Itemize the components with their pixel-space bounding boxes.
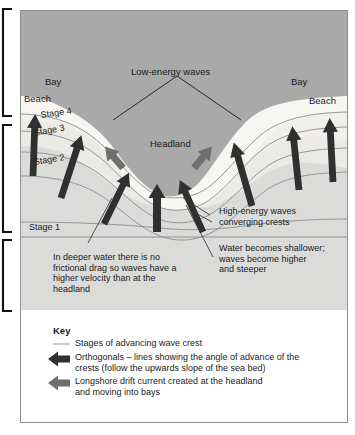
label-stage-1: Stage 1: [29, 222, 60, 233]
key-title: Key: [53, 325, 70, 336]
label-bay-right: Bay: [291, 76, 307, 87]
label-beach-left: Beach: [24, 93, 51, 104]
annotation-water-shallower: Water becomes shallower; waves become hi…: [219, 243, 325, 275]
key-entry-2-text: Longshore drift current created at the h…: [75, 376, 263, 397]
label-low-energy-waves: Low-energy waves: [131, 66, 210, 77]
bracket-2: [3, 125, 12, 232]
label-beach-right: Beach: [309, 95, 336, 106]
label-headland: Headland: [150, 138, 191, 149]
key-entry-0-text: Stages of advancing wave crest: [75, 338, 202, 349]
label-bay-left: Bay: [45, 76, 61, 87]
key-entry-1-text: Orthogonals – lines showing the angle of…: [75, 352, 299, 373]
annotation-high-energy-waves: High-energy waves converging crests: [219, 206, 296, 227]
figure-root: Low-energy waves Bay Bay Beach Beach Hea…: [0, 0, 355, 435]
left-edge-brackets: [3, 9, 12, 311]
annotation-deeper-water: In deeper water there is no frictional d…: [53, 252, 177, 294]
bracket-1: [3, 9, 12, 116]
bracket-3: [3, 240, 12, 311]
